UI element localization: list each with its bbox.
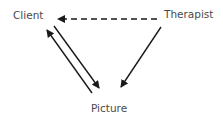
diagram-edges [0, 0, 223, 124]
edge-client-to-picture [54, 26, 99, 88]
edge-therapist-to-picture [121, 27, 161, 87]
edge-picture-to-client [47, 30, 92, 93]
